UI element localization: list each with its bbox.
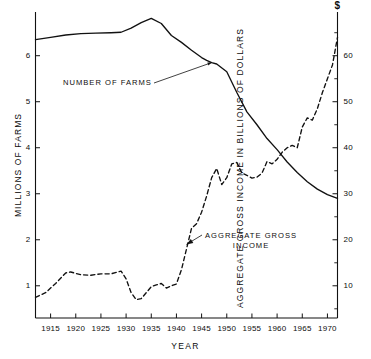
y-axis-left-ticklabel: 6 <box>9 51 31 60</box>
axes-group <box>36 12 338 318</box>
y-axis-right-ticklabel: 40 <box>344 143 366 152</box>
y-axis-left-ticklabel: 5 <box>9 97 31 106</box>
aggregate-gross-income-annotation-line1: AGGREGATE GROSS <box>205 231 297 241</box>
plot-area-svg <box>0 0 371 359</box>
series-line-1 <box>36 37 338 299</box>
number-of-farms-annotation-arrowhead <box>207 62 211 65</box>
y-axis-left-ticklabel: 1 <box>9 281 31 290</box>
y-axis-right-ticklabel: 50 <box>344 97 366 106</box>
series-line-0 <box>36 18 338 198</box>
y-axis-left-ticklabel: 4 <box>9 143 31 152</box>
x-axis-ticklabel: 1970 <box>310 324 344 333</box>
series-group <box>36 18 338 299</box>
x-axis-title: YEAR <box>0 341 371 351</box>
y-axis-right-ticklabel: 30 <box>344 189 366 198</box>
y-axis-left-ticklabel: 3 <box>9 189 31 198</box>
chart-figure: MILLIONS OF FARMS AGGREGATE GROSS INCOME… <box>0 0 371 359</box>
y-axis-left-title: MILLIONS OF FARMS <box>13 85 23 245</box>
annotation-leader-lines <box>154 62 212 244</box>
dollar-unit-symbol: $ <box>335 0 341 11</box>
number-of-farms-annotation: NUMBER OF FARMS <box>63 78 152 87</box>
aggregate-gross-income-annotation-line2: INCOME <box>205 241 297 251</box>
y-axis-right-title: AGGREGATE GROSS INCOME IN BILLIONS OF DO… <box>235 23 245 313</box>
y-axis-right-ticklabel: 10 <box>344 281 366 290</box>
y-axis-right-ticklabel: 60 <box>344 51 366 60</box>
aggregate-gross-income-annotation: AGGREGATE GROSSINCOME <box>205 231 297 251</box>
number-of-farms-annotation-leader-line <box>154 63 212 83</box>
aggregate-gross-income-annotation-arrowhead <box>187 239 194 244</box>
y-axis-left-ticklabel: 2 <box>9 235 31 244</box>
y-axis-right-ticklabel: 20 <box>344 235 366 244</box>
